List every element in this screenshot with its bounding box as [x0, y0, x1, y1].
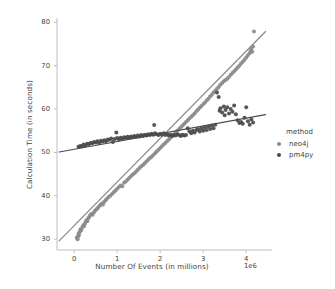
data-point [251, 121, 255, 125]
x-tick-label: 2 [153, 255, 167, 263]
data-point [114, 130, 118, 134]
legend-item-pm4py[interactable]: pm4py [276, 150, 332, 160]
legend-entries: neo4jpm4py [276, 139, 332, 160]
data-point [223, 113, 227, 117]
legend-item-neo4j[interactable]: neo4j [276, 139, 332, 149]
data-point [252, 29, 256, 33]
x-tick-label: 3 [196, 255, 210, 263]
x-axis-exponent-label: 1e6 [244, 262, 257, 270]
legend-title: method [286, 128, 332, 136]
legend: method neo4jpm4py [276, 128, 332, 161]
x-axis-label: Number Of Events (in millions) [72, 262, 232, 271]
y-tick-label: 50 [32, 148, 50, 156]
legend-marker-icon [277, 142, 281, 146]
y-tick-label: 70 [32, 62, 50, 70]
data-series-layer [59, 29, 265, 241]
data-point [205, 128, 209, 132]
data-point [120, 184, 124, 188]
data-point [152, 123, 156, 127]
data-point [217, 95, 221, 99]
x-tick-label: 1 [110, 255, 124, 263]
x-tick-label: 0 [67, 255, 81, 263]
data-point [232, 104, 236, 108]
y-tick-label: 60 [32, 105, 50, 113]
data-point [215, 91, 219, 95]
data-point [234, 112, 238, 116]
data-point [222, 104, 226, 108]
data-point [109, 137, 113, 141]
data-point [248, 123, 252, 127]
y-tick-label: 30 [32, 235, 50, 243]
data-point [241, 122, 245, 126]
legend-label: neo4j [289, 140, 308, 148]
data-point [201, 129, 205, 133]
data-point [208, 127, 212, 131]
y-tick-label: 80 [32, 18, 50, 26]
data-point [225, 105, 229, 109]
series-pm4py [59, 91, 265, 152]
data-point [184, 133, 188, 137]
data-point [218, 106, 222, 110]
legend-marker-icon [277, 153, 281, 157]
x-tick-label: 4 [239, 255, 253, 263]
data-point [227, 111, 231, 115]
data-point [250, 50, 254, 54]
data-point [212, 126, 216, 130]
data-point [246, 119, 250, 123]
data-point [198, 130, 202, 134]
legend-label: pm4py [289, 151, 313, 159]
y-tick-label: 40 [32, 192, 50, 200]
data-point [230, 110, 234, 114]
data-point [244, 105, 248, 109]
